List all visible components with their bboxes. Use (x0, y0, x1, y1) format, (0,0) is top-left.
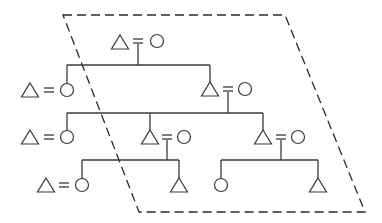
male-triangle-icon (171, 178, 188, 192)
pedigree-marks (22, 35, 327, 193)
male-triangle-icon (22, 83, 39, 97)
pedigree-diagram (0, 0, 382, 223)
female-circle-icon (151, 35, 164, 48)
male-triangle-icon (112, 35, 129, 49)
male-triangle-icon (38, 178, 55, 192)
male-triangle-icon (310, 178, 327, 192)
male-triangle-icon (142, 130, 159, 144)
female-circle-icon (215, 179, 228, 192)
female-circle-icon (61, 131, 74, 144)
male-triangle-icon (22, 130, 39, 144)
male-triangle-icon (255, 130, 272, 144)
female-circle-icon (292, 131, 305, 144)
female-circle-icon (178, 131, 191, 144)
female-circle-icon (239, 83, 252, 96)
female-circle-icon (76, 179, 89, 192)
female-circle-icon (61, 84, 74, 97)
male-triangle-icon (202, 82, 219, 96)
